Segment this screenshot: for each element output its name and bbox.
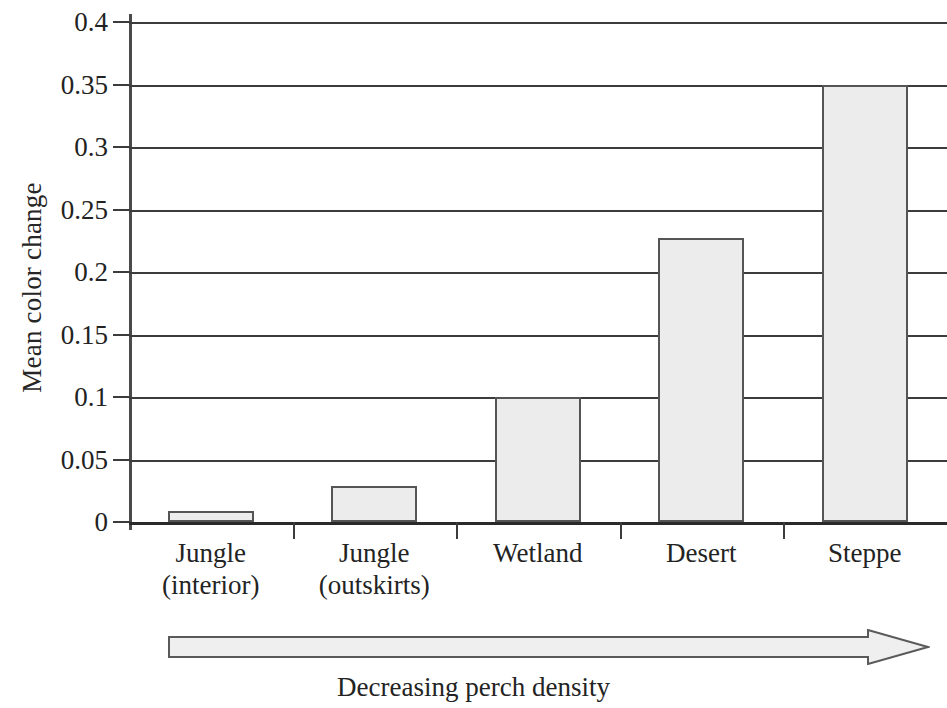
decreasing-density-arrow — [168, 629, 930, 665]
x-axis-tick-label-line: Steppe — [828, 538, 902, 570]
arrow-caption: Decreasing perch density — [0, 672, 947, 703]
y-axis-tick-label: 0 — [95, 509, 109, 536]
x-axis-tick-mark — [620, 522, 622, 539]
bar — [658, 238, 744, 522]
bar — [822, 85, 908, 523]
y-axis-tick-label: 0.05 — [61, 446, 108, 473]
y-axis-tick-label: 0.35 — [61, 71, 108, 98]
x-axis-tick-mark — [456, 522, 458, 539]
axis-baseline — [129, 522, 947, 525]
y-axis-tick-mark — [113, 271, 130, 273]
y-axis-tick-label: 0.25 — [61, 196, 108, 223]
plot-area — [129, 22, 947, 522]
y-axis-tick-label: 0.4 — [74, 9, 108, 36]
x-axis-tick-label-line: (outskirts) — [319, 570, 430, 602]
y-axis-tick-mark — [113, 146, 130, 148]
x-axis-tick-label-line: Jungle — [319, 538, 430, 570]
x-axis-tick-label-line: Wetland — [493, 538, 582, 570]
gridline — [129, 22, 947, 24]
y-axis-tick-mark — [113, 334, 130, 336]
x-axis-tick-label-line: (interior) — [162, 570, 259, 602]
y-axis-tick-mark — [113, 459, 130, 461]
bar — [331, 486, 417, 522]
x-axis-tick-label: Steppe — [828, 538, 902, 570]
x-axis-tick-label: Jungle(interior) — [162, 538, 259, 602]
y-axis-tick-mark — [113, 209, 130, 211]
x-axis-tick-label-line: Desert — [666, 538, 736, 570]
x-axis-tick-label: Wetland — [493, 538, 582, 570]
y-axis-tick-mark — [113, 521, 130, 523]
y-axis-tick-label: 0.15 — [61, 321, 108, 348]
x-axis-tick-label: Jungle(outskirts) — [319, 538, 430, 602]
y-axis-tick-mark — [113, 396, 130, 398]
right-arrow-icon — [168, 629, 930, 665]
y-axis-tick-label: 0.3 — [74, 134, 108, 161]
x-axis-tick-label: Desert — [666, 538, 736, 570]
y-axis-tick-mark — [113, 84, 130, 86]
y-axis-tick-label: 0.1 — [74, 384, 108, 411]
y-axis-tick-mark — [113, 21, 130, 23]
x-axis-tick-mark — [293, 522, 295, 539]
bar — [168, 511, 254, 522]
y-axis-tick-label: 0.2 — [74, 259, 108, 286]
x-axis-tick-mark — [783, 522, 785, 539]
x-axis-tick-label-line: Jungle — [162, 538, 259, 570]
bar — [495, 397, 581, 522]
bar-chart-figure: Mean color change 00.050.10.150.20.250.3… — [0, 0, 947, 708]
y-axis-tick-labels: 00.050.10.150.20.250.30.350.4 — [0, 0, 116, 560]
